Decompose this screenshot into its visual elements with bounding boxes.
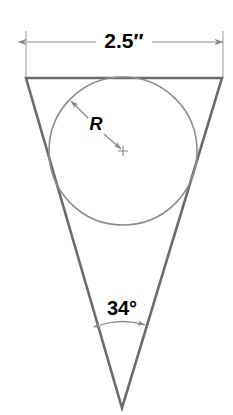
apex-angle-label: 34° — [107, 297, 137, 319]
width-dimension-label: 2.5″ — [104, 29, 143, 52]
radius-label: R — [90, 114, 103, 134]
geometry-canvas: 2.5″ R 34° — [0, 0, 233, 415]
apex-angle-arc — [100, 322, 145, 326]
technical-drawing-figure: 2.5″ R 34° — [0, 0, 233, 415]
radius-leader-upper-segment — [71, 101, 88, 118]
radius-leader-lower-segment — [104, 134, 121, 149]
